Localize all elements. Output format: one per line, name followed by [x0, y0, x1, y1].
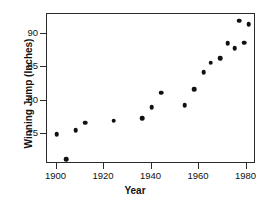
data-point: [232, 46, 237, 51]
data-point: [149, 105, 154, 110]
scatter-plot-figure: Winning Jump (Inches) 75808590 190019201…: [0, 0, 270, 200]
x-axis-tick-label: 1960: [187, 171, 208, 181]
x-axis-tick: [246, 163, 247, 169]
data-point: [225, 41, 230, 46]
plot-area: [46, 13, 255, 163]
y-axis-tick-label: 75: [27, 128, 38, 138]
data-point: [209, 60, 214, 65]
data-point: [83, 120, 88, 125]
x-axis-tick: [198, 163, 199, 169]
data-point: [218, 56, 223, 61]
data-point: [247, 22, 252, 27]
x-axis-tick: [56, 163, 57, 169]
x-axis-tick: [103, 163, 104, 169]
x-axis-tick-label: 1940: [140, 171, 161, 181]
data-point: [64, 157, 69, 162]
x-axis-title: Year: [0, 185, 270, 196]
data-point: [192, 87, 197, 92]
data-point: [54, 132, 59, 137]
data-point: [237, 18, 242, 23]
y-axis-tick-label: 85: [27, 62, 38, 72]
x-axis-tick-label: 1980: [235, 171, 256, 181]
data-point: [201, 70, 206, 75]
data-point: [140, 116, 145, 121]
data-point: [159, 90, 164, 95]
data-point: [182, 103, 187, 108]
x-axis-tick-label: 1900: [45, 171, 66, 181]
y-axis-tick-label: 90: [27, 28, 38, 38]
data-point: [111, 118, 116, 123]
data-point: [242, 40, 247, 45]
x-axis-tick-label: 1920: [92, 171, 113, 181]
x-axis-tick: [151, 163, 152, 169]
data-points-layer: [47, 14, 254, 162]
y-axis-tick-label: 80: [27, 95, 38, 105]
data-point: [73, 128, 78, 133]
